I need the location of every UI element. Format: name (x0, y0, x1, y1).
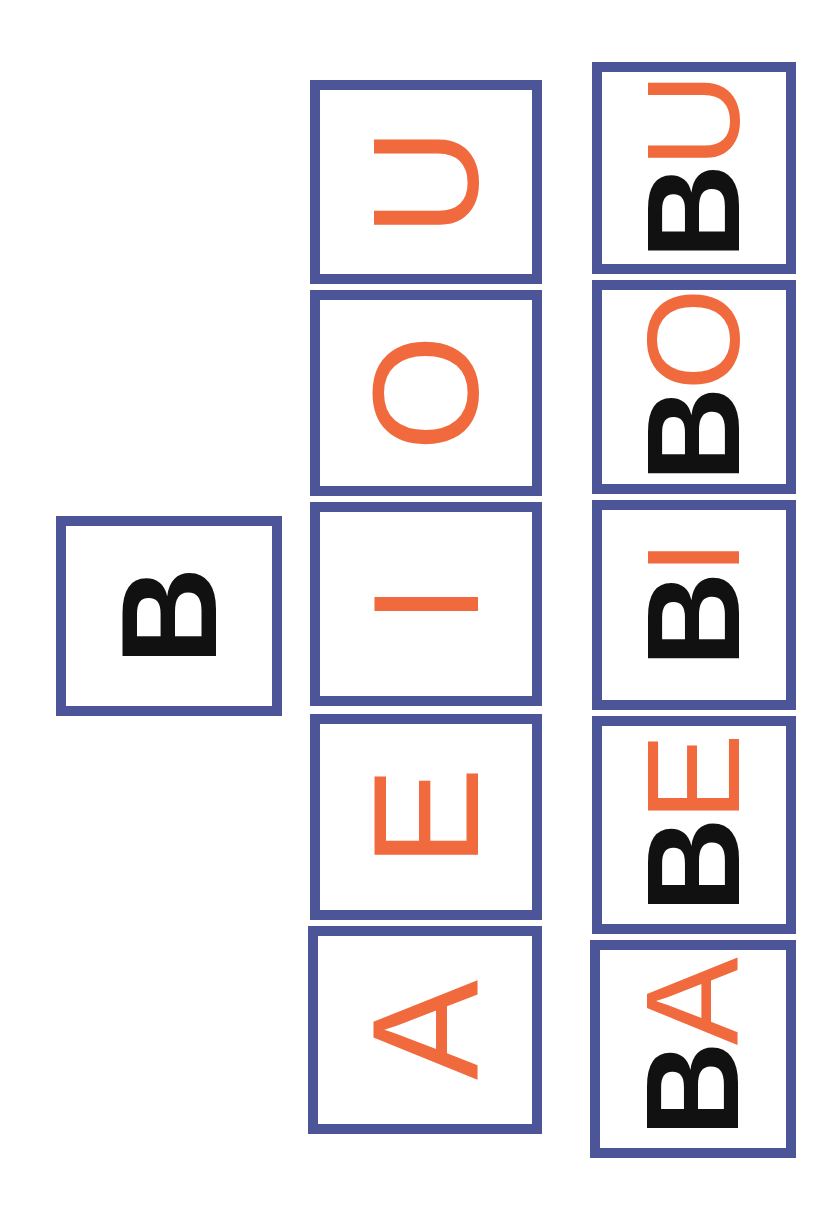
syllable: BO (628, 292, 760, 482)
syllable-consonant: B (620, 821, 767, 912)
vowel-card-i: I (310, 502, 542, 706)
syllable-card-bo: BO (592, 280, 796, 494)
vowel-letter: E (351, 767, 501, 867)
syllable-card-be: BE (592, 716, 796, 934)
syllable-consonant: B (620, 576, 767, 667)
syllable: BU (628, 77, 760, 260)
syllable-vowel: E (620, 737, 767, 821)
vowel-card-a: A (308, 926, 542, 1134)
syllable-card-ba: BA (590, 940, 796, 1158)
syllable-vowel: A (619, 961, 766, 1045)
vowel-letter: A (350, 980, 500, 1080)
syllable-vowel: U (620, 77, 767, 168)
vowel-card-u: U (310, 80, 542, 284)
syllable-card-bi: BI (592, 500, 796, 710)
syllable-consonant: B (620, 391, 767, 482)
syllable-consonant: B (619, 1045, 766, 1136)
syllable-vowel: I (620, 543, 767, 576)
syllable: BI (628, 543, 760, 667)
vowel-letter: I (351, 583, 501, 625)
vowel-letter: U (351, 128, 501, 236)
syllable: BA (627, 961, 759, 1136)
syllable-card-bu: BU (592, 62, 796, 274)
vowel-card-e: E (310, 714, 542, 920)
vowel-card-o: O (310, 290, 542, 496)
syllable: BE (628, 737, 760, 912)
vowel-letter: O (351, 335, 501, 452)
syllable-consonant: B (620, 168, 767, 259)
consonant-card-b: B (56, 516, 282, 716)
consonant-letter: B (101, 567, 237, 665)
syllable-vowel: O (620, 292, 767, 391)
